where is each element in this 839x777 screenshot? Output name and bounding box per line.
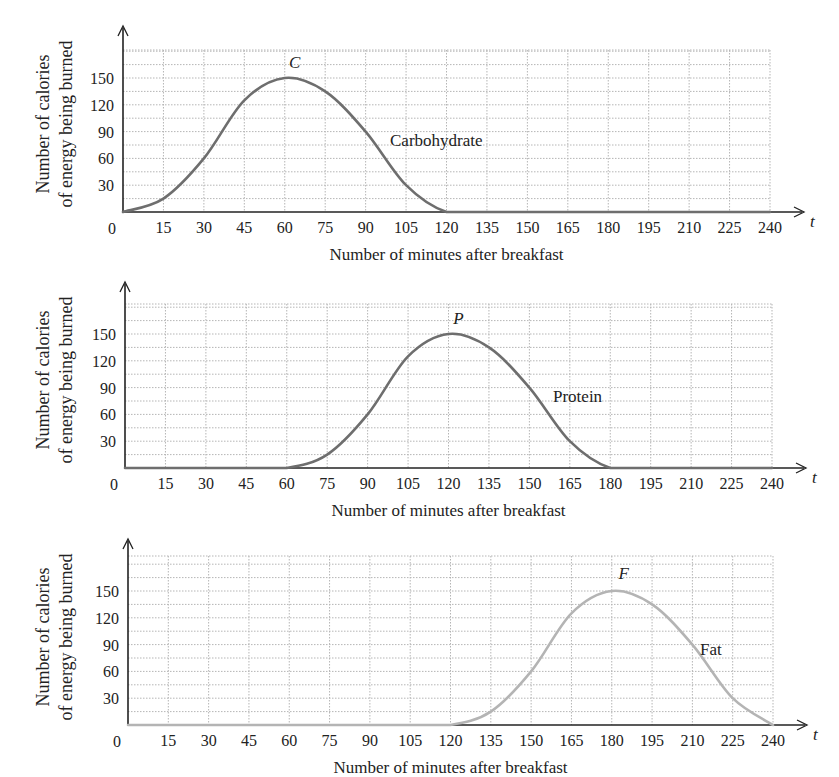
x-tick-label: 75 [322, 732, 338, 749]
x-tick-label: 30 [201, 732, 217, 749]
origin-label: 0 [110, 476, 118, 493]
peak-label: C [289, 53, 301, 72]
x-tick-label: 120 [437, 475, 461, 492]
x-tick-label: 195 [637, 219, 661, 236]
chart-panel-carbohydrate: t015304560759010512013515016518019521022… [0, 0, 839, 264]
x-tick-label: 15 [160, 732, 176, 749]
y-tick-label: 60 [103, 663, 119, 680]
x-tick-label: 165 [558, 475, 582, 492]
x-tick-label: 210 [680, 732, 704, 749]
x-axis-variable: t [810, 212, 816, 231]
x-tick-label: 90 [360, 475, 376, 492]
x-tick-label: 180 [600, 732, 624, 749]
origin-label: 0 [113, 733, 121, 750]
x-tick-label: 150 [517, 475, 541, 492]
x-tick-label: 45 [241, 732, 257, 749]
x-tick-label: 195 [639, 475, 663, 492]
y-tick-label: 150 [95, 583, 119, 600]
y-tick-label: 60 [100, 406, 116, 423]
x-tick-label: 240 [760, 475, 784, 492]
x-tick-label: 105 [396, 475, 420, 492]
x-tick-label: 15 [157, 475, 173, 492]
x-tick-label: 60 [279, 475, 295, 492]
y-tick-label: 30 [100, 433, 116, 450]
y-axis-title: of energy being burned [56, 296, 76, 463]
y-axis-title: of energy being burned [56, 40, 76, 207]
x-tick-label: 30 [196, 219, 212, 236]
x-tick-label: 225 [721, 732, 745, 749]
x-axis-title: Number of minutes after breakfast [333, 758, 567, 777]
x-tick-label: 210 [677, 219, 701, 236]
x-tick-label: 60 [281, 732, 297, 749]
y-tick-label: 90 [98, 124, 114, 141]
chart-panel-protein: t015304560759010512013515016518019521022… [0, 256, 839, 520]
x-tick-label: 225 [720, 475, 744, 492]
y-axis-title: Number of calories [33, 55, 53, 194]
x-tick-label: 135 [479, 732, 503, 749]
x-tick-label: 225 [718, 219, 742, 236]
y-tick-label: 60 [98, 150, 114, 167]
x-axis-variable: t [813, 725, 819, 744]
y-tick-label: 90 [100, 380, 116, 397]
x-tick-label: 240 [758, 219, 782, 236]
x-tick-label: 135 [477, 475, 501, 492]
y-axis-title: Number of calories [33, 568, 53, 707]
curve-label: Fat [700, 640, 722, 659]
x-tick-label: 105 [394, 219, 418, 236]
y-tick-label: 120 [95, 610, 119, 627]
x-tick-label: 210 [679, 475, 703, 492]
x-tick-label: 90 [362, 732, 378, 749]
x-tick-label: 180 [598, 475, 622, 492]
x-tick-label: 60 [277, 219, 293, 236]
x-tick-label: 30 [198, 475, 214, 492]
y-tick-label: 150 [92, 326, 116, 343]
y-tick-label: 120 [92, 353, 116, 370]
peak-label: F [618, 564, 630, 583]
x-tick-label: 180 [596, 219, 620, 236]
x-tick-label: 195 [640, 732, 664, 749]
origin-label: 0 [108, 220, 116, 237]
x-axis-variable: t [812, 468, 818, 487]
y-axis-title: Number of calories [33, 311, 53, 450]
x-tick-label: 150 [519, 732, 543, 749]
y-tick-label: 120 [90, 97, 114, 114]
chart-panel-fat: t015304560759010512013515016518019521022… [0, 513, 839, 777]
grid [128, 556, 773, 725]
peak-label: P [452, 309, 463, 328]
x-tick-label: 105 [398, 732, 422, 749]
x-tick-label: 120 [435, 219, 459, 236]
y-tick-label: 150 [90, 70, 114, 87]
x-tick-label: 120 [439, 732, 463, 749]
x-tick-label: 45 [238, 475, 254, 492]
y-tick-label: 30 [103, 690, 119, 707]
x-tick-label: 135 [475, 219, 499, 236]
y-tick-label: 90 [103, 637, 119, 654]
x-tick-label: 150 [515, 219, 539, 236]
x-tick-label: 15 [155, 219, 171, 236]
grid [125, 304, 772, 468]
x-tick-label: 90 [358, 219, 374, 236]
x-tick-label: 45 [236, 219, 252, 236]
y-tick-label: 30 [98, 177, 114, 194]
x-tick-label: 240 [761, 732, 785, 749]
curve-label: Protein [553, 387, 603, 406]
x-tick-label: 165 [559, 732, 583, 749]
y-axis-title: of energy being burned [56, 553, 76, 720]
x-tick-label: 75 [317, 219, 333, 236]
curve-label: Carbohydrate [390, 131, 483, 150]
x-tick-label: 75 [319, 475, 335, 492]
x-tick-label: 165 [556, 219, 580, 236]
